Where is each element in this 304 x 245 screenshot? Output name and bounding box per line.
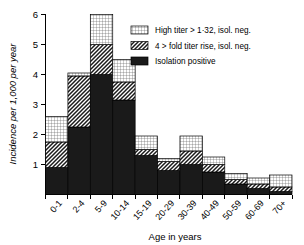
bar-segment bbox=[180, 165, 202, 195]
legend-swatch bbox=[131, 26, 148, 34]
bar-segment bbox=[158, 162, 180, 171]
bar-segment bbox=[202, 172, 224, 195]
legend-label: 4 > fold titer rise, isol. neg. bbox=[155, 42, 251, 51]
incidence-by-age-stacked-bar-chart: 6 5 4 3 2 1 Incidence per 1,000 per year… bbox=[0, 0, 304, 245]
bar-segment bbox=[247, 184, 269, 189]
bar-segment bbox=[247, 178, 269, 184]
bar-segment bbox=[113, 100, 135, 195]
bar-segment bbox=[135, 136, 157, 150]
bar-segment bbox=[270, 187, 292, 192]
chart-figure: 6 5 4 3 2 1 Incidence per 1,000 per year… bbox=[0, 0, 304, 245]
y-tick-label-2: 2 bbox=[33, 129, 38, 140]
bar-segment bbox=[46, 168, 68, 195]
bar-segment bbox=[68, 76, 90, 127]
x-axis-ticks bbox=[46, 195, 293, 199]
bar-segment bbox=[202, 157, 224, 165]
bar-segment bbox=[180, 136, 202, 151]
bar-segment bbox=[247, 189, 269, 195]
y-tick-label-3: 3 bbox=[33, 99, 38, 110]
x-tick-label: 20-29 bbox=[153, 198, 176, 222]
x-axis-title: Age in years bbox=[149, 231, 202, 242]
y-axis-title: Incidence per 1,000 per year bbox=[7, 43, 18, 165]
bar-segment bbox=[158, 171, 180, 195]
bar-segment bbox=[68, 73, 90, 76]
x-tick-label: 40-49 bbox=[198, 198, 221, 222]
legend-label: Isolation positive bbox=[155, 57, 216, 66]
bar-segment bbox=[46, 117, 68, 143]
legend-swatch bbox=[131, 57, 148, 65]
x-tick-label: 70+ bbox=[271, 198, 289, 216]
legend-label: High titer > 1·32, isol. neg. bbox=[155, 26, 251, 35]
x-tick-label: 10-14 bbox=[109, 198, 132, 222]
bar-segment bbox=[225, 184, 247, 195]
bar-segment bbox=[225, 174, 247, 180]
legend-swatch bbox=[131, 42, 148, 50]
x-tick-label: 30-39 bbox=[176, 198, 199, 222]
bar-segment bbox=[270, 175, 292, 187]
x-axis-tick-labels: 0-12-45-910-1415-1920-2930-3940-4950-596… bbox=[48, 198, 288, 222]
bar-segment bbox=[270, 192, 292, 195]
x-tick-label: 15-19 bbox=[131, 198, 154, 222]
bar-segment bbox=[135, 150, 157, 156]
chart-legend: High titer > 1·32, isol. neg.4 > fold ti… bbox=[131, 26, 251, 66]
y-tick-label-4: 4 bbox=[33, 69, 38, 80]
bar-segment bbox=[46, 142, 68, 168]
bar-segment bbox=[90, 15, 112, 45]
x-tick-label: 60-69 bbox=[243, 198, 266, 222]
bar-segment bbox=[158, 159, 180, 162]
y-axis-ticks bbox=[41, 15, 46, 165]
x-tick-label: 5-9 bbox=[93, 198, 109, 214]
x-tick-label: 50-59 bbox=[221, 198, 244, 222]
bar-segment bbox=[180, 151, 202, 165]
y-tick-label-5: 5 bbox=[33, 39, 38, 50]
x-tick-label: 2-4 bbox=[70, 198, 86, 214]
bar-segment bbox=[68, 127, 90, 195]
x-tick-label: 0-1 bbox=[48, 198, 64, 214]
bar-segment bbox=[113, 82, 135, 100]
y-axis-tick-labels: 6 5 4 3 2 1 bbox=[33, 9, 38, 170]
bar-segment bbox=[135, 156, 157, 195]
y-tick-label-1: 1 bbox=[33, 159, 38, 170]
bar-segment bbox=[90, 75, 112, 195]
y-tick-label-6: 6 bbox=[33, 9, 38, 20]
bar-segment bbox=[90, 45, 112, 75]
bar-segment bbox=[225, 180, 247, 185]
bar-segment bbox=[202, 165, 224, 173]
